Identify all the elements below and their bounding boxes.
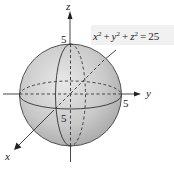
- y-axis-label: y: [145, 87, 151, 99]
- sphere-diagram: z y x 5 5 5 x2+y2+z2=25: [0, 0, 174, 170]
- x-intercept-label: 5: [61, 112, 67, 124]
- x-axis-label: x: [4, 150, 10, 162]
- y-axis-arrow-icon: [134, 92, 141, 97]
- z-axis-label: z: [65, 0, 71, 12]
- z-intercept-label: 5: [61, 33, 67, 45]
- z-axis-arrow-icon: [68, 11, 73, 19]
- y-intercept-label: 5: [123, 97, 129, 109]
